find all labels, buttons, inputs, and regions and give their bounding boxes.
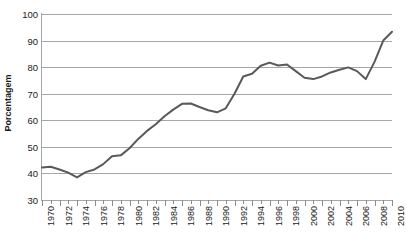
- x-tick-minor: [243, 200, 244, 204]
- x-tick-label: 1992: [239, 206, 249, 226]
- x-tick-minor: [68, 200, 69, 204]
- x-tick-minor: [261, 200, 262, 204]
- x-tick-minor: [313, 200, 314, 204]
- x-tick-label: 2010: [396, 206, 406, 226]
- x-tick-label: 1986: [186, 206, 196, 226]
- x-tick-label: 1996: [274, 206, 284, 226]
- y-tick-label: 60: [27, 115, 38, 126]
- y-tick-label: 70: [27, 88, 38, 99]
- x-tick-minor: [383, 200, 384, 204]
- x-tick-major: [392, 200, 393, 206]
- x-tick-minor: [331, 200, 332, 204]
- x-tick-label: 1998: [291, 206, 301, 226]
- x-axis-tick-labels: 1970197219741976197819801982198419861988…: [42, 206, 392, 239]
- x-tick-label: 1984: [169, 206, 179, 226]
- x-tick-minor: [191, 200, 192, 204]
- x-tick-label: 2002: [326, 206, 336, 226]
- x-tick-label: 1970: [46, 206, 56, 226]
- x-tick-minor: [366, 200, 367, 204]
- y-axis-tick-labels: 10090807060504030: [14, 0, 40, 205]
- x-tick-label: 1982: [151, 206, 161, 226]
- y-tick-label: 50: [27, 141, 38, 152]
- x-tick-label: 1980: [134, 206, 144, 226]
- y-tick-label: 40: [27, 168, 38, 179]
- y-tick-label: 30: [27, 195, 38, 206]
- x-tick-minor: [121, 200, 122, 204]
- x-tick-minor: [173, 200, 174, 204]
- x-tick-label: 2006: [361, 206, 371, 226]
- y-tick-label: 100: [22, 9, 38, 20]
- x-tick-label: 1990: [221, 206, 231, 226]
- plot-area: [42, 14, 392, 200]
- x-tick-label: 1994: [256, 206, 266, 226]
- x-tick-minor: [86, 200, 87, 204]
- x-tick-minor: [138, 200, 139, 204]
- x-tick-minor: [348, 200, 349, 204]
- x-tick-label: 1974: [81, 206, 91, 226]
- x-tick-minor: [296, 200, 297, 204]
- x-tick-label: 2008: [379, 206, 389, 226]
- x-tick-minor: [103, 200, 104, 204]
- x-tick-minor: [226, 200, 227, 204]
- x-tick-minor: [278, 200, 279, 204]
- y-tick-label: 80: [27, 62, 38, 73]
- x-tick-label: 1976: [99, 206, 109, 226]
- x-tick-minor: [51, 200, 52, 204]
- y-tick-label: 90: [27, 35, 38, 46]
- x-tick-label: 2000: [309, 206, 319, 226]
- series-line-porcentagem: [42, 14, 392, 200]
- x-tick-label: 1972: [64, 206, 74, 226]
- x-tick-minor: [208, 200, 209, 204]
- x-tick-label: 2004: [344, 206, 354, 226]
- x-tick-label: 1978: [116, 206, 126, 226]
- y-axis-title-label: Porcentagem: [3, 74, 13, 131]
- x-tick-label: 1988: [204, 206, 214, 226]
- x-tick-minor: [156, 200, 157, 204]
